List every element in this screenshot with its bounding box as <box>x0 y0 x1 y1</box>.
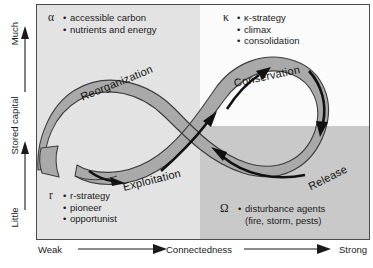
r-item-2: opportunist <box>63 213 117 225</box>
omega-item-0: disturbance agents <box>238 203 325 215</box>
alpha-item-0: accessible carbon <box>63 12 157 24</box>
y-axis-high-label: Much <box>9 14 20 54</box>
figure-canvas: Much Stored capital Little <box>0 0 373 268</box>
x-axis-title: Connectedness <box>166 244 232 255</box>
kappa-symbol: κ <box>223 11 229 23</box>
omega-continuation: (fire, storm, pests) <box>238 215 325 227</box>
kappa-annotation: κ-strategy climax consolidation <box>237 12 299 47</box>
plot-area: Reorganization Exploitation Conservation… <box>36 4 370 240</box>
omega-symbol: Ω <box>220 202 229 214</box>
y-axis-low-label: Little <box>9 198 20 238</box>
x-axis: Weak Connectedness Strong <box>36 240 368 264</box>
ribbon-left-tail <box>40 146 59 177</box>
alpha-symbol: α <box>48 11 54 23</box>
kappa-item-2: consolidation <box>237 35 299 47</box>
kappa-item-1: climax <box>237 24 299 36</box>
r-annotation: r-strategy pioneer opportunist <box>63 190 117 225</box>
y-axis: Much Stored capital Little <box>0 0 36 240</box>
r-symbol: r <box>49 189 53 201</box>
r-item-1: pioneer <box>63 202 117 214</box>
omega-annotation: disturbance agents (fire, storm, pests) <box>238 203 325 226</box>
y-axis-title: Stored capital <box>9 96 20 156</box>
x-axis-high-label: Strong <box>339 244 367 255</box>
r-item-0: r-strategy <box>63 190 117 202</box>
alpha-item-1: nutrients and energy <box>63 24 157 36</box>
x-axis-low-label: Weak <box>38 244 62 255</box>
kappa-item-0: κ-strategy <box>237 12 299 24</box>
alpha-annotation: accessible carbon nutrients and energy <box>63 12 157 35</box>
